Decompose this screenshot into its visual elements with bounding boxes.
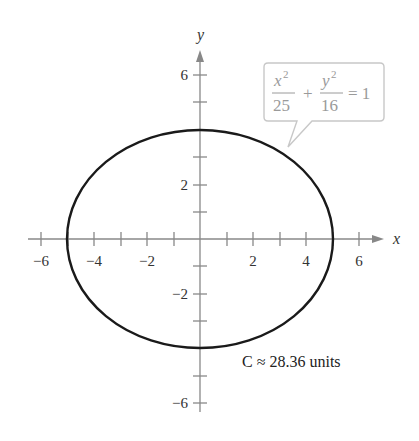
eq-plus: + — [303, 84, 313, 103]
y-tick-label: 2 — [181, 177, 189, 193]
eq-x-denominator: 25 — [273, 96, 290, 115]
eq-y-denominator: 16 — [321, 96, 338, 115]
eq-x-exponent: 2 — [283, 68, 289, 80]
circumference-annotation: C ≈ 28.36 units — [242, 353, 341, 370]
y-tick-label: 6 — [181, 67, 189, 83]
y-tick-label: −6 — [172, 395, 188, 411]
x-tick-label: 2 — [249, 253, 257, 269]
equation-callout: x 2 25 + y 2 16 = 1 — [264, 63, 384, 147]
x-tick-label: −2 — [139, 253, 155, 269]
eq-x-numerator: x — [273, 71, 282, 90]
x-tick-label: 6 — [355, 253, 363, 269]
x-tick-label: −4 — [86, 253, 102, 269]
eq-equals: = 1 — [348, 84, 370, 103]
y-tick-label: −2 — [172, 286, 188, 302]
x-axis: −6 −4 −2 2 4 6 x — [28, 230, 400, 269]
x-axis-label: x — [392, 230, 400, 247]
y-axis-arrow-icon — [196, 50, 204, 62]
x-tick-label: 4 — [302, 253, 310, 269]
x-axis-arrow-icon — [372, 235, 384, 243]
y-axis: 6 2 −2 −6 y — [172, 26, 207, 412]
eq-y-numerator: y — [320, 71, 330, 90]
eq-y-exponent: 2 — [331, 68, 337, 80]
x-tick-label: −6 — [33, 253, 49, 269]
y-axis-label: y — [195, 26, 205, 44]
ellipse-chart: −6 −4 −2 2 4 6 x 6 2 −2 −6 y x — [0, 0, 419, 441]
